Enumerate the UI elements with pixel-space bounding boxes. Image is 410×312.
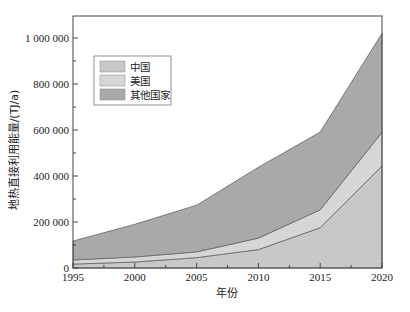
y-tick-label: 200 000 (33, 216, 69, 228)
legend: 中国美国其他国家 (94, 56, 171, 105)
y-tick-label: 600 000 (33, 124, 69, 136)
x-tick-label: 2015 (309, 271, 332, 283)
y-tick-label: 1 000 000 (25, 32, 70, 44)
legend-swatch (100, 89, 125, 100)
x-axis-title: 年份 (216, 286, 238, 300)
y-tick-label: 400 000 (33, 170, 69, 182)
y-axis-title: 地热直接利用能量/(TJ/a) (7, 90, 21, 211)
legend-swatch (100, 61, 125, 72)
x-tick-label: 2000 (124, 271, 147, 283)
x-tick-label: 2010 (247, 271, 270, 283)
y-tick-label: 800 000 (33, 78, 69, 90)
legend-label: 美国 (130, 75, 150, 87)
chart: 199520002005201020152020 0200 000400 000… (0, 0, 410, 312)
legend-label: 中国 (130, 61, 150, 73)
x-tick-label: 2005 (186, 271, 209, 283)
y-axis: 0200 000400 000600 000800 0001 000 000 (25, 32, 78, 274)
x-tick-label: 2020 (371, 271, 394, 283)
y-tick-label: 0 (64, 262, 70, 274)
legend-label: 其他国家 (130, 89, 171, 101)
legend-swatch (100, 75, 125, 86)
